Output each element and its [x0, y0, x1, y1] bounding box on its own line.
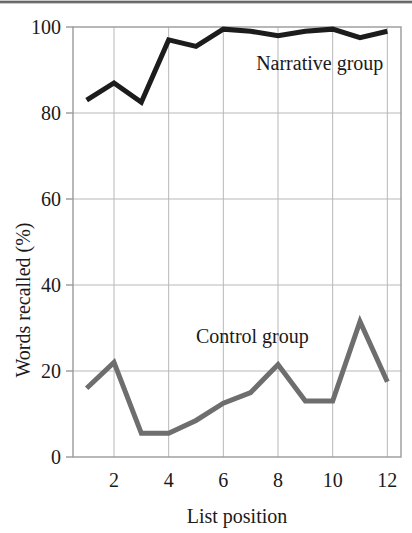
- control-group-annotation: Control group: [196, 325, 309, 348]
- y-tick-label: 20: [41, 360, 61, 382]
- x-axis-tick-labels: 24681012: [109, 469, 397, 491]
- narrative-group-annotation: Narrative group: [256, 52, 383, 75]
- y-tick-label: 60: [41, 188, 61, 210]
- x-axis-title: List position: [187, 505, 288, 528]
- x-tick-label: 10: [323, 469, 343, 491]
- x-tick-label: 6: [218, 469, 228, 491]
- y-axis-title: Words recalled (%): [12, 223, 35, 378]
- y-tick-label: 100: [31, 16, 61, 38]
- x-tick-label: 12: [377, 469, 397, 491]
- x-tick-label: 2: [109, 469, 119, 491]
- y-axis-tick-labels: 020406080100: [31, 16, 73, 468]
- line-chart: 020406080100 24681012 Words recalled (%)…: [0, 0, 412, 533]
- y-tick-label: 80: [41, 102, 61, 124]
- x-tick-label: 4: [164, 469, 174, 491]
- x-tick-label: 8: [273, 469, 283, 491]
- y-tick-label: 40: [41, 274, 61, 296]
- y-tick-label: 0: [51, 446, 61, 468]
- figure-container: 020406080100 24681012 Words recalled (%)…: [0, 0, 412, 533]
